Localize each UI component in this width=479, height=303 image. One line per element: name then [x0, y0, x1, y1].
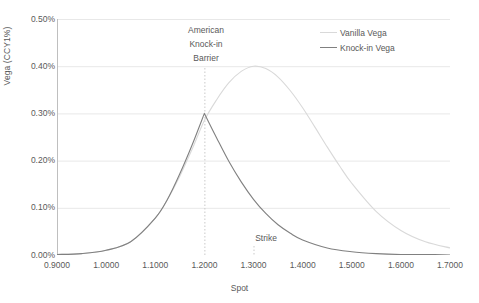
barrier-annotation-line-3: Barrier [160, 51, 252, 65]
x-tick-label: 1.7000 [420, 261, 479, 270]
y-tick-label: 0.00% [3, 251, 55, 260]
legend-item-knock-in-vega[interactable]: Knock-in Vega [320, 40, 395, 55]
legend-item-vanilla-vega[interactable]: Vanilla Vega [320, 25, 395, 40]
y-tick-label: 0.40% [3, 62, 55, 71]
y-tick-label: 0.30% [3, 109, 55, 118]
legend-label-vanilla-vega: Vanilla Vega [340, 28, 387, 38]
legend-swatch-vanilla-vega [320, 32, 337, 33]
strike-annotation: Strike [236, 233, 296, 243]
barrier-annotation-line-1: American [160, 23, 252, 37]
x-axis-title: Spot [0, 283, 479, 293]
y-tick-label: 0.10% [3, 203, 55, 212]
barrier-annotation-line-2: Knock-in [160, 37, 252, 51]
series-line-vanilla-vega [57, 66, 450, 254]
legend: Vanilla Vega Knock-in Vega [320, 25, 395, 55]
legend-label-knock-in-vega: Knock-in Vega [340, 43, 395, 53]
legend-swatch-knock-in-vega [320, 47, 337, 48]
y-tick-label: 0.20% [3, 156, 55, 165]
y-tick-label: 0.50% [3, 15, 55, 24]
vega-vs-spot-chart: Vega (CCY1%) 0.00%0.10%0.20%0.30%0.40%0.… [0, 0, 479, 303]
barrier-annotation: American Knock-in Barrier [160, 23, 252, 65]
